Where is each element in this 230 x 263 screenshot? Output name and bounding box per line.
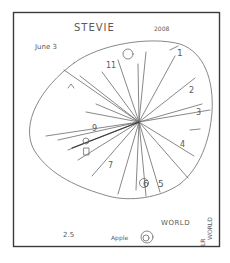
clock-drawing-sheet: STEVIE 2008 June 3 bbox=[0, 0, 230, 263]
clock-number-3: 3 bbox=[196, 108, 201, 117]
doodle-three-dash bbox=[190, 129, 200, 130]
year-text: 2008 bbox=[154, 25, 169, 32]
doodle-ten-mark bbox=[68, 84, 74, 88]
apple-inner-doodle bbox=[143, 235, 149, 241]
clock-face-outline bbox=[29, 41, 212, 199]
lr-label: LR bbox=[199, 238, 206, 246]
number-label: 2.5 bbox=[63, 231, 74, 239]
title-text: STEVIE bbox=[74, 22, 115, 33]
clock-number-6: 6 bbox=[143, 179, 149, 189]
world-label: WORLD bbox=[161, 219, 190, 227]
clock-radial-lines bbox=[46, 52, 210, 196]
doodle-top-circle bbox=[123, 49, 133, 59]
world-vertical-label: WORLD bbox=[206, 217, 213, 240]
clock-number-9: 9 bbox=[92, 124, 97, 133]
clock-number-5: 5 bbox=[158, 179, 164, 189]
clock-number-2: 2 bbox=[189, 86, 194, 95]
clock-number-11: 11 bbox=[106, 61, 116, 70]
clock-drawing-canvas: STEVIE 2008 June 3 bbox=[0, 0, 230, 263]
clock-numbers: 1 2 3 4 5 6 7 9 11 bbox=[92, 48, 201, 189]
apple-label: Apple bbox=[111, 234, 128, 242]
clock-number-1: 1 bbox=[177, 48, 183, 58]
date-text: June 3 bbox=[34, 43, 57, 51]
clock-number-4: 4 bbox=[180, 140, 185, 149]
clock-number-7: 7 bbox=[108, 161, 113, 170]
